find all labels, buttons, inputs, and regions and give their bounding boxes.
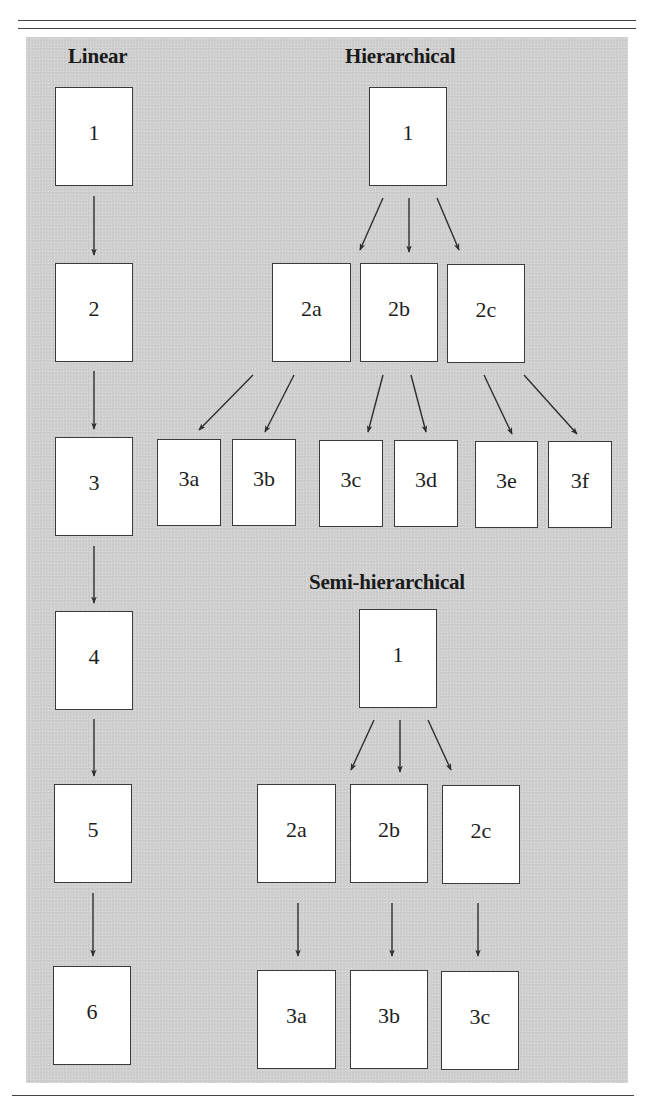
bottom-rule (12, 1095, 634, 1096)
diagram-panel (26, 37, 628, 1083)
hier-l3-box-3e: 3e (475, 441, 538, 528)
box-label: 3a (179, 466, 200, 492)
top-rule-1 (18, 20, 636, 21)
box-label: 3 (89, 470, 100, 496)
box-label: 6 (87, 999, 98, 1025)
section-title-hierarchical: Hierarchical (345, 44, 455, 69)
hier-l2-box-2b: 2b (360, 263, 438, 362)
box-label: 3c (341, 467, 362, 493)
box-label: 3f (571, 468, 589, 494)
box-label: 3a (286, 1003, 307, 1029)
section-title-linear: Linear (68, 44, 127, 69)
hier-l1-box-1: 1 (369, 87, 447, 186)
box-label: 1 (403, 120, 414, 146)
box-label: 2c (476, 297, 497, 323)
top-rule-2 (18, 28, 636, 29)
box-label: 2a (301, 296, 322, 322)
linear-box-1: 1 (55, 87, 133, 186)
box-label: 5 (88, 817, 99, 843)
hier-l2-box-2a: 2a (272, 263, 351, 362)
box-label: 3c (470, 1004, 491, 1030)
box-label: 3b (378, 1003, 400, 1029)
linear-box-6: 6 (53, 966, 131, 1065)
linear-box-4: 4 (55, 611, 133, 710)
box-label: 3e (496, 468, 517, 494)
linear-box-3: 3 (55, 437, 133, 536)
hier-l3-box-3a: 3a (157, 439, 221, 526)
section-title-semi: Semi-hierarchical (309, 570, 465, 595)
semi-l2-box-2a: 2a (257, 784, 336, 883)
box-label: 3b (253, 466, 275, 492)
linear-box-2: 2 (55, 263, 133, 362)
box-label: 2a (286, 817, 307, 843)
box-label: 4 (89, 644, 100, 670)
semi-l1-box-1: 1 (359, 609, 437, 708)
hier-l3-box-3b: 3b (232, 439, 296, 526)
box-label: 2b (388, 296, 410, 322)
box-label: 2 (89, 296, 100, 322)
hier-l3-box-3c: 3c (319, 440, 383, 527)
hier-l3-box-3d: 3d (394, 440, 458, 527)
box-label: 3d (415, 467, 437, 493)
box-label: 1 (89, 120, 100, 146)
semi-l3-box-3b: 3b (350, 970, 428, 1069)
hier-l3-box-3f: 3f (548, 441, 612, 528)
semi-l2-box-2b: 2b (350, 784, 428, 883)
semi-l3-box-3a: 3a (257, 970, 336, 1069)
linear-box-5: 5 (54, 784, 132, 883)
hier-l2-box-2c: 2c (447, 264, 525, 363)
box-label: 2b (378, 817, 400, 843)
box-label: 2c (471, 818, 492, 844)
box-label: 1 (393, 642, 404, 668)
semi-l2-box-2c: 2c (442, 785, 520, 884)
semi-l3-box-3c: 3c (441, 971, 519, 1070)
